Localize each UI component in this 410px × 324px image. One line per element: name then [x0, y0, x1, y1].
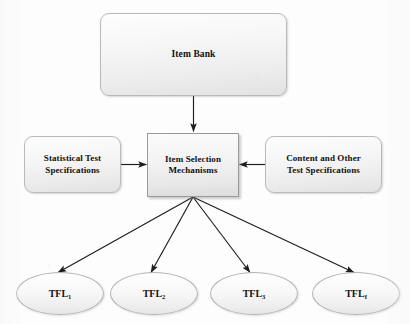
node-tfl-1-label: TFL1 [49, 288, 72, 299]
node-item-bank[interactable]: Item Bank [100, 13, 287, 96]
node-statistical-test-specifications-label: Statistical Test Specifications [44, 153, 101, 176]
node-item-bank-label: Item Bank [172, 49, 216, 61]
node-tfl-2[interactable]: TFL2 [110, 272, 198, 315]
node-tfl-3-label: TFL3 [243, 288, 266, 299]
node-item-selection-mechanisms-label: Item Selection Mechanisms [165, 154, 221, 177]
node-statistical-test-specifications[interactable]: Statistical Test Specifications [24, 136, 121, 193]
node-tfl-3[interactable]: TFL3 [210, 272, 298, 315]
node-tfl-1[interactable]: TFL1 [16, 272, 104, 315]
node-item-selection-mechanisms[interactable]: Item Selection Mechanisms [147, 133, 239, 197]
edge-selection-to-tfl-3 [193, 197, 250, 273]
node-tfl-4-label: TFLf [345, 288, 367, 299]
diagram-canvas: Item Bank Statistical Test Specification… [0, 0, 410, 324]
node-tfl-4[interactable]: TFLf [312, 272, 400, 315]
node-content-and-other-test-specifications[interactable]: Content and Other Test Specifications [265, 136, 382, 193]
edge-selection-to-tfl-1 [58, 197, 193, 273]
edge-selection-to-tfl-4 [193, 197, 354, 273]
node-content-and-other-test-specifications-label: Content and Other Test Specifications [286, 153, 361, 176]
node-tfl-2-label: TFL2 [143, 288, 166, 299]
